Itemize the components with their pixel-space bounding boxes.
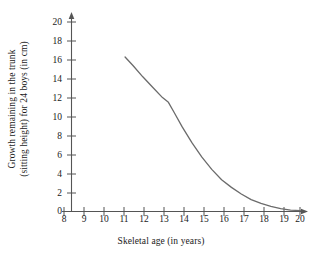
x-tick-label-18: 18 (254, 214, 274, 224)
y-axis-title-line2: (sitting height) for 24 boys (in cm) (18, 41, 30, 177)
y-tick-label-18: 18 (44, 36, 62, 47)
data-series-line (125, 57, 300, 211)
y-axis-title-line1: Growth remaining in the trunk (6, 41, 18, 177)
x-axis-title: Skeletal age (in years) (0, 236, 322, 246)
x-tick-label-20: 20 (290, 214, 310, 224)
y-tick-label-8: 8 (44, 131, 62, 142)
x-tick-label-10: 10 (94, 214, 114, 224)
y-tick-label-16: 16 (44, 55, 62, 66)
y-tick-label-2: 2 (44, 188, 62, 199)
y-axis (69, 12, 75, 211)
x-tick-label-9: 9 (74, 214, 94, 224)
x-tick-label-12: 12 (134, 214, 154, 224)
y-tick-label-14: 14 (44, 74, 62, 85)
y-tick-label-10: 10 (44, 112, 62, 123)
y-tick-label-12: 12 (44, 93, 62, 104)
y-tick-label-6: 6 (44, 150, 62, 161)
x-tick-label-8: 8 (54, 214, 74, 224)
x-tick-label-13: 13 (154, 214, 174, 224)
y-axis-title: Growth remaining in the trunk (sitting h… (0, 0, 36, 218)
y-tick-label-4: 4 (44, 169, 62, 180)
x-tick-label-16: 16 (214, 214, 234, 224)
x-tick-label-14: 14 (174, 214, 194, 224)
chart-container: 20 18 16 14 12 10 8 6 4 2 0 8 9 10 11 12… (0, 0, 322, 262)
x-tick-label-15: 15 (194, 214, 214, 224)
x-tick-label-17: 17 (234, 214, 254, 224)
x-tick-label-11: 11 (114, 214, 134, 224)
y-tick-label-20: 20 (44, 17, 62, 28)
